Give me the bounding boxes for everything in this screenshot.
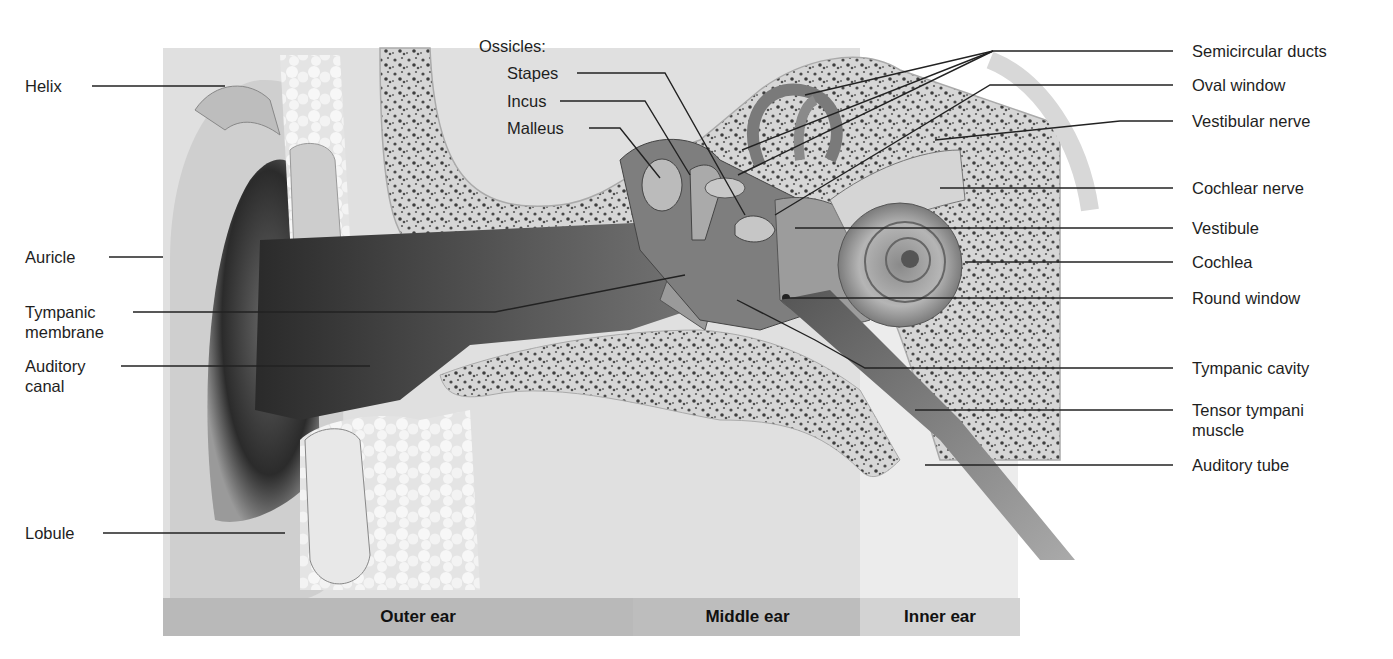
ear-anatomy-diagram: Helix Auricle Tympanic membrane Auditory… (0, 0, 1393, 659)
region-middle-ear: Middle ear (633, 598, 860, 636)
label-stapes: Stapes (507, 63, 558, 83)
label-ossicles-heading: Ossicles: (479, 36, 546, 56)
region-inner-ear: Inner ear (860, 598, 1020, 636)
label-malleus: Malleus (507, 118, 564, 138)
malleus-shape (642, 159, 682, 211)
label-auditory-tube: Auditory tube (1192, 455, 1289, 475)
label-incus: Incus (507, 91, 546, 111)
label-vestibular-nerve: Vestibular nerve (1192, 111, 1310, 131)
label-vestibule: Vestibule (1192, 218, 1259, 238)
label-helix: Helix (25, 76, 62, 96)
label-tensor-tympani-muscle: Tensor tympani muscle (1192, 400, 1304, 440)
label-oval-window: Oval window (1192, 75, 1286, 95)
label-tympanic-membrane: Tympanic membrane (25, 302, 104, 342)
label-round-window: Round window (1192, 288, 1300, 308)
label-semicircular-ducts: Semicircular ducts (1192, 41, 1327, 61)
label-auditory-canal: Auditory canal (25, 356, 86, 396)
label-tympanic-cavity: Tympanic cavity (1192, 358, 1309, 378)
ear-illustration (0, 0, 1393, 659)
region-outer-ear: Outer ear (163, 598, 633, 636)
label-cochlear-nerve: Cochlear nerve (1192, 178, 1304, 198)
label-cochlea: Cochlea (1192, 252, 1253, 272)
label-auricle: Auricle (25, 247, 75, 267)
label-lobule: Lobule (25, 523, 75, 543)
